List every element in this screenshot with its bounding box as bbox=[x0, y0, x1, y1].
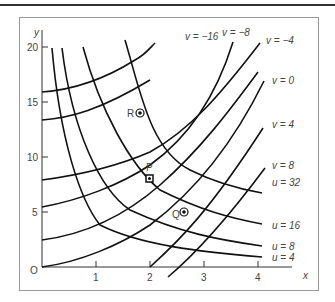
x-tick-label: 3 bbox=[201, 272, 207, 283]
v-16-curve bbox=[42, 72, 258, 240]
u-label: u = 4 bbox=[272, 252, 295, 263]
v-label: v = 4 bbox=[272, 119, 294, 130]
v-label: v = 8 bbox=[272, 160, 294, 171]
curvilinear-coordinates-diagram: 1 2 3 4 5 10 15 20 O y x v = −16 v = −8 … bbox=[0, 0, 335, 302]
u-label: u = 8 bbox=[272, 241, 295, 252]
y-tick-label: 20 bbox=[27, 42, 39, 53]
x-tick-label: 4 bbox=[255, 272, 261, 283]
y-axis-label: y bbox=[33, 27, 40, 38]
v-label: v = −8 bbox=[222, 27, 250, 38]
x-tick-label: 1 bbox=[93, 272, 99, 283]
x-axis-label: x bbox=[302, 270, 309, 281]
v-label: v = −4 bbox=[266, 35, 294, 46]
point-Q: Q bbox=[172, 208, 188, 220]
y-tick-label: 15 bbox=[27, 97, 39, 108]
y-tick-label: 10 bbox=[27, 152, 39, 163]
point-R: R bbox=[127, 108, 144, 119]
y-tick-label: 5 bbox=[32, 207, 38, 218]
svg-text:P: P bbox=[146, 162, 153, 173]
v-8-curve bbox=[42, 42, 233, 207]
svg-text:R: R bbox=[127, 108, 134, 119]
v-label: v = −16 bbox=[185, 31, 219, 42]
u-label: u = 16 bbox=[272, 220, 301, 231]
svg-text:Q: Q bbox=[172, 209, 180, 220]
point-P: P bbox=[146, 162, 153, 182]
u-label: u = 32 bbox=[272, 177, 301, 188]
origin-label: O bbox=[30, 265, 38, 276]
x-tick-label: 2 bbox=[147, 272, 153, 283]
v-label: v = 0 bbox=[272, 75, 294, 86]
